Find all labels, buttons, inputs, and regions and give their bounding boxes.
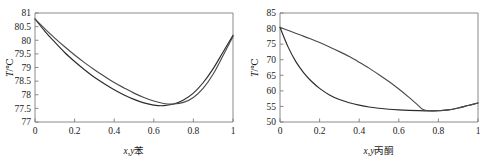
axis-frame [35, 13, 233, 122]
x-tick-label: 0.2 [69, 126, 81, 136]
y-tick-label: 77.5 [14, 104, 31, 114]
y-tick-label: 70 [267, 55, 277, 65]
y-tick-label: 50 [267, 117, 277, 127]
y-tick-label: 79.5 [14, 49, 31, 59]
acetone-txy-plot: 505560657075808500.20.40.60.81T/℃x,y丙酮 [245, 0, 489, 165]
x-tick-label: 0.4 [353, 126, 365, 136]
y-tick-label: 78.5 [14, 76, 31, 86]
axis-frame-outer [35, 13, 233, 122]
y-tick-label: 78 [22, 90, 32, 100]
vapor-curve [280, 27, 478, 111]
x-axis-title: x,y丙酮 [363, 146, 395, 156]
benzene-txy-plot: 7777.57878.57979.58080.58100.20.40.60.81… [0, 0, 244, 165]
y-tick-label: 80 [22, 36, 32, 46]
axis-frame [280, 13, 478, 122]
y-axis-title: T/℃ [5, 58, 15, 77]
x-tick-label: 0.8 [432, 126, 444, 136]
y-tick-label: 80.5 [14, 22, 31, 32]
y-tick-label: 85 [267, 8, 277, 18]
x-tick-label: 0.6 [393, 126, 405, 136]
y-tick-label: 60 [267, 86, 277, 96]
x-tick-label: 0.6 [148, 126, 160, 136]
y-tick-label: 75 [267, 39, 277, 49]
y-tick-label: 81 [22, 8, 32, 18]
y-axis-title: T/℃ [250, 58, 260, 77]
y-tick-label: 80 [267, 24, 277, 34]
figure-container: 7777.57878.57979.58080.58100.20.40.60.81… [0, 0, 489, 165]
y-tick-label: 79 [22, 63, 32, 73]
x-tick-label: 0.4 [108, 126, 120, 136]
x-tick-label: 1 [476, 126, 481, 136]
liquid-curve [280, 27, 478, 111]
y-tick-label: 77 [22, 117, 32, 127]
x-tick-label: 0.8 [187, 126, 199, 136]
x-tick-label: 0.2 [314, 126, 326, 136]
x-axis-title: x,y苯 [123, 145, 145, 156]
axis-frame-outer [280, 13, 478, 122]
chart-panel-acetone: 505560657075808500.20.40.60.81T/℃x,y丙酮 [245, 0, 489, 165]
chart-panel-benzene: 7777.57878.57979.58080.58100.20.40.60.81… [0, 0, 244, 165]
vapor-curve [35, 19, 233, 104]
x-tick-label: 0 [33, 126, 38, 136]
x-tick-label: 0 [278, 126, 283, 136]
y-tick-label: 55 [267, 102, 277, 112]
y-tick-label: 65 [267, 71, 277, 81]
x-tick-label: 1 [231, 126, 236, 136]
